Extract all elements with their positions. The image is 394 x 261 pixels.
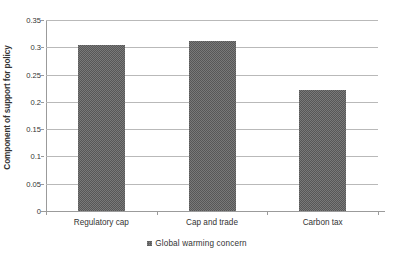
y-axis-tick-label: 0.15 (13, 125, 41, 134)
x-axis-tick-mark (157, 211, 158, 215)
y-axis-tick-label: 0.1 (13, 152, 41, 161)
y-axis-title: Component of support for policy (0, 0, 14, 215)
y-axis-tick-mark (41, 75, 44, 76)
x-axis-tick-mark (267, 211, 268, 215)
x-axis-tick-labels: Regulatory capCap and tradeCarbon tax (46, 218, 378, 234)
bar-regulatory-cap[interactable] (78, 45, 125, 211)
y-axis-tick-mark (41, 20, 44, 21)
y-axis-tick-mark (41, 184, 44, 185)
bars-layer (46, 20, 378, 211)
y-axis-title-text: Component of support for policy (3, 45, 12, 169)
legend-swatch-icon (147, 241, 152, 246)
bar-chart: Component of support for policy 00.050.1… (0, 0, 394, 261)
x-axis-tick-mark (378, 211, 379, 215)
y-axis-tick-mark (41, 102, 44, 103)
y-axis-tick-label: 0.05 (13, 179, 41, 188)
x-axis-tick-label: Regulatory cap (74, 218, 129, 227)
y-axis-tick-label: 0.2 (13, 97, 41, 106)
y-axis-tick-labels: 00.050.10.150.20.250.30.35 (14, 0, 44, 220)
legend-label: Global warming concern (155, 239, 247, 248)
x-axis-tick-mark (46, 211, 47, 215)
legend: Global warming concern (0, 239, 394, 248)
y-axis-tick-mark (41, 129, 44, 130)
x-axis-tick-label: Cap and trade (186, 218, 238, 227)
y-axis-tick-label: 0.25 (13, 70, 41, 79)
y-axis-tick-mark (41, 156, 44, 157)
y-axis-tick-mark (41, 47, 44, 48)
x-axis-tick-label: Carbon tax (303, 218, 343, 227)
y-axis-tick-label: 0 (13, 207, 41, 216)
plot-area (46, 20, 378, 211)
x-axis-line (40, 211, 385, 212)
y-axis-tick-label: 0.3 (13, 43, 41, 52)
bar-carbon-tax[interactable] (299, 90, 346, 211)
bar-cap-and-trade[interactable] (189, 41, 236, 211)
y-axis-tick-label: 0.35 (13, 16, 41, 25)
